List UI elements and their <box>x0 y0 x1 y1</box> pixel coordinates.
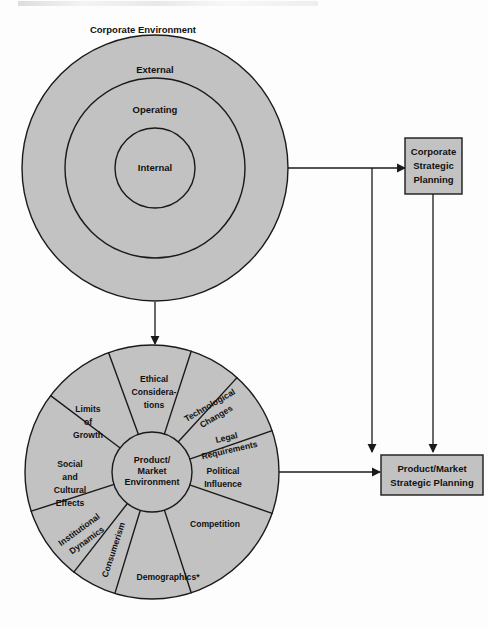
wheel-hub-line-3: Environment <box>124 477 179 487</box>
ring-label-external: External <box>136 64 174 75</box>
corporate-strategic-planning-line-2: Strategic <box>413 160 454 171</box>
page-title: Corporate Environment <box>90 24 197 35</box>
product-market-strategic-planning-box[interactable]: Product/Market Strategic Planning <box>381 455 483 495</box>
svg-text:Political: Political <box>207 466 240 476</box>
product-market-strategic-planning-line-1: Product/Market <box>397 463 467 474</box>
svg-text:Ethical: Ethical <box>140 374 168 384</box>
product-market-strategic-planning-rect[interactable] <box>381 455 483 495</box>
corporate-strategic-planning-line-1: Corporate <box>411 146 456 157</box>
svg-text:Cultural: Cultural <box>54 485 86 495</box>
figure-canvas: External Operating Internal Corporate En… <box>0 0 488 628</box>
svg-text:Competition: Competition <box>190 519 240 529</box>
wheel-segment-competition: Competition <box>190 519 240 529</box>
svg-text:Growth: Growth <box>73 430 103 440</box>
corporate-environment-diagram: External Operating Internal <box>22 35 288 301</box>
wheel-hub-line-1: Product/ <box>134 455 171 465</box>
svg-text:Considera-: Considera- <box>132 387 177 397</box>
svg-text:of: of <box>84 417 92 427</box>
svg-text:Effects: Effects <box>56 498 85 508</box>
svg-text:Demographics*: Demographics* <box>136 572 200 582</box>
svg-text:and: and <box>62 472 77 482</box>
wheel-segment-demographics: Demographics* <box>136 572 200 582</box>
corporate-strategic-planning-box[interactable]: Corporate Strategic Planning <box>405 138 462 194</box>
ring-label-operating: Operating <box>133 104 178 115</box>
diagram-svg: External Operating Internal Corporate En… <box>0 0 488 628</box>
product-market-strategic-planning-line-2: Strategic Planning <box>390 477 474 488</box>
svg-text:Influence: Influence <box>204 479 242 489</box>
product-market-wheel: Product/ Market Environment Ethical Cons… <box>25 345 279 599</box>
corporate-strategic-planning-line-3: Planning <box>413 174 453 185</box>
ring-label-internal: Internal <box>138 162 172 173</box>
svg-text:Limits: Limits <box>75 404 101 414</box>
wheel-hub-line-2: Market <box>137 466 166 476</box>
svg-text:Social: Social <box>57 459 82 469</box>
svg-text:tions: tions <box>144 400 165 410</box>
